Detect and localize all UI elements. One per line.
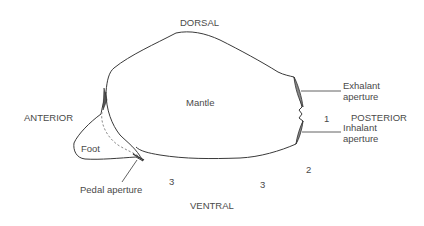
label-inhalant-line2: aperture [343, 134, 403, 145]
marker-3-right: 3 [260, 180, 265, 191]
label-mantle: Mantle [186, 98, 215, 109]
pedal-leader-line [122, 160, 137, 182]
inhalant-aperture-shape [296, 121, 303, 144]
label-anterior: ANTERIOR [24, 113, 73, 124]
mantle-outline [106, 32, 303, 159]
foot-dashed-line [102, 112, 140, 157]
label-dorsal: DORSAL [180, 18, 219, 29]
foot-inner-edge [106, 92, 143, 161]
marker-3-left: 3 [169, 177, 174, 188]
label-exhalant-aperture: Exhalant aperture [343, 81, 403, 102]
label-ventral: VENTRAL [190, 201, 234, 212]
label-foot: Foot [81, 144, 100, 155]
label-inhalant-line1: Inhalant [343, 123, 403, 134]
marker-2: 2 [306, 165, 311, 176]
marker-1: 1 [324, 114, 329, 125]
exhalant-aperture-shape [294, 77, 303, 107]
label-inhalant-aperture: Inhalant aperture [343, 123, 403, 144]
diagram-canvas: DORSAL Mantle ANTERIOR Foot Pedal apertu… [0, 0, 424, 226]
label-pedal-aperture: Pedal aperture [80, 185, 142, 196]
label-exhalant-line1: Exhalant [343, 81, 403, 92]
label-exhalant-line2: aperture [343, 92, 403, 103]
